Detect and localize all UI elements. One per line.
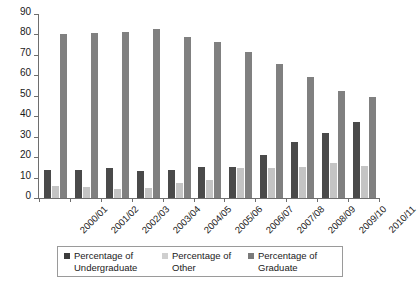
bar-group — [286, 14, 317, 198]
bar — [206, 180, 213, 198]
bar — [307, 77, 314, 198]
y-axis-tick-mark — [34, 75, 38, 76]
x-axis-label: 2010/11 — [387, 204, 418, 235]
legend-item-undergraduate: Percentage of Undergraduate — [64, 250, 137, 273]
x-axis-label: 2001/02 — [109, 204, 140, 235]
bar-group — [317, 14, 348, 198]
y-axis-tick-label: 70 — [20, 48, 31, 58]
bar-group — [132, 14, 163, 198]
bar — [137, 171, 144, 198]
x-axis-label: 2007/08 — [295, 204, 326, 235]
bar — [260, 155, 267, 198]
bar — [322, 133, 329, 198]
y-axis-tick-label: 60 — [20, 68, 31, 78]
bar-group — [348, 14, 379, 198]
y-axis-tick-mark — [34, 96, 38, 97]
y-axis-tick-label: 20 — [20, 150, 31, 160]
bar — [245, 52, 252, 198]
legend-label-other: Percentage of Other — [172, 250, 231, 273]
x-axis-tick-mark — [379, 198, 380, 202]
y-axis-tick-mark — [34, 157, 38, 158]
bar — [75, 170, 82, 198]
bar — [176, 183, 183, 198]
bar — [291, 142, 298, 198]
bar — [145, 188, 152, 198]
legend-item-graduate: Percentage of Graduate — [248, 250, 317, 273]
x-axis-label: 2006/07 — [264, 204, 295, 235]
bar-group — [224, 14, 255, 198]
bar — [353, 122, 360, 198]
y-axis-tick-mark — [34, 55, 38, 56]
y-axis-tick-mark — [34, 14, 38, 15]
x-axis-label: 2003/04 — [171, 204, 202, 235]
bar-group — [255, 14, 286, 198]
bar — [44, 170, 51, 198]
y-axis-tick-label: 50 — [20, 89, 31, 99]
y-axis-tick-mark — [34, 34, 38, 35]
legend-item-other: Percentage of Other — [162, 250, 231, 273]
bar — [361, 166, 368, 198]
bar — [276, 64, 283, 198]
y-axis-tick-label: 0 — [25, 191, 31, 201]
y-axis-tick-label: 90 — [20, 7, 31, 17]
y-axis-tick-label: 30 — [20, 130, 31, 140]
x-axis-label: 2009/10 — [357, 204, 388, 235]
legend-swatch-undergraduate — [64, 253, 70, 259]
x-axis-label: 2000/01 — [78, 204, 109, 235]
bar-group — [194, 14, 225, 198]
x-axis-line — [38, 198, 379, 199]
legend-label-graduate: Percentage of Graduate — [258, 250, 317, 273]
x-axis-labels: 2000/012001/022002/032003/042004/052005/… — [39, 200, 379, 244]
bar-group — [163, 14, 194, 198]
bar — [122, 32, 129, 198]
bar — [91, 33, 98, 198]
bar — [369, 97, 376, 198]
y-axis-tick-label: 10 — [20, 171, 31, 181]
legend-swatch-graduate — [248, 253, 254, 259]
bar — [114, 189, 121, 198]
bar — [330, 163, 337, 198]
x-axis-label: 2002/03 — [140, 204, 171, 235]
bar — [299, 167, 306, 198]
x-axis-label: 2004/05 — [202, 204, 233, 235]
y-axis-tick-mark — [34, 198, 38, 199]
bar — [83, 187, 90, 198]
y-axis-tick-mark — [34, 137, 38, 138]
chart-legend: Percentage of Undergraduate Percentage o… — [57, 246, 343, 277]
legend-swatch-other — [162, 253, 168, 259]
bar — [229, 167, 236, 198]
y-axis-tick-mark — [34, 178, 38, 179]
bar — [52, 186, 59, 198]
x-axis-label: 2008/09 — [326, 204, 357, 235]
bar — [184, 37, 191, 199]
bar — [237, 168, 244, 198]
y-axis-tick-label: 40 — [20, 109, 31, 119]
bar-group — [70, 14, 101, 198]
bar — [338, 91, 345, 198]
x-axis-label: 2005/06 — [233, 204, 264, 235]
bar — [153, 29, 160, 198]
y-axis-tick-label: 80 — [20, 27, 31, 37]
bar — [106, 168, 113, 198]
bar — [168, 170, 175, 198]
bar-group — [101, 14, 132, 198]
bar-group — [39, 14, 70, 198]
y-axis-tick-mark — [34, 116, 38, 117]
legend-label-undergraduate: Percentage of Undergraduate — [74, 250, 137, 273]
bar — [198, 167, 205, 198]
plot-bars — [39, 14, 379, 198]
bar — [60, 34, 67, 198]
bar — [214, 42, 221, 198]
bar — [268, 168, 275, 198]
